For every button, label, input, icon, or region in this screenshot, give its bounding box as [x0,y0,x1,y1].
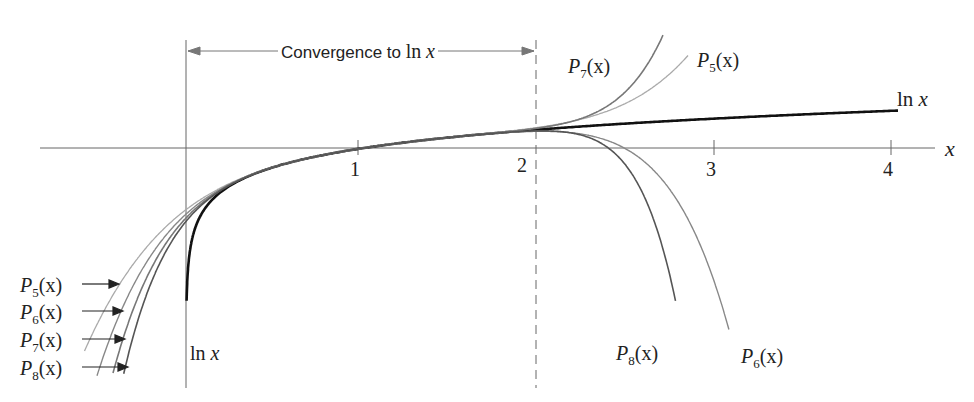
x-tick-label-1: 1 [350,158,360,181]
arg-text: (x) [716,49,739,71]
label-p8-left: P8(x) [20,358,62,382]
p-text: P [20,357,32,379]
p-text: P [616,342,628,364]
x-text: x [919,87,928,111]
arg-text: (x) [39,357,62,379]
label-p7-top: P7(x) [568,56,610,80]
x-text: x [211,342,220,364]
p-text: P [20,329,32,351]
arg-text: (x) [39,329,62,351]
x-tick-label-4: 4 [883,158,893,181]
ln-text: ln [897,87,913,111]
convergence-x: x [426,40,435,62]
ln-text: ln [190,342,206,364]
label-p7-left: P7(x) [20,330,62,354]
label-ln-x-right: ln x [897,89,928,110]
label-p5-left: P5(x) [20,275,62,299]
curves [85,35,899,376]
p-text: P [741,345,753,367]
arg-text: (x) [39,274,62,296]
label-ln-x-left: ln x [190,343,219,363]
convergence-ln: ln [406,40,422,62]
x-tick-label-2: 2 [517,154,527,177]
chart-plot-area [0,0,974,402]
arg-text: (x) [39,301,62,323]
label-p5-top: P5(x) [697,50,739,74]
curve-p6x [97,131,729,375]
p-text: P [20,301,32,323]
label-arrows [82,280,128,371]
curve-p5x [85,56,689,352]
curve-p7x [113,35,663,373]
arg-text: (x) [760,345,783,367]
arg-text: (x) [635,342,658,364]
p-text: P [568,55,580,77]
x-tick-label-3: 3 [706,158,716,181]
label-p6-bottom: P6(x) [741,346,783,370]
p-text: P [20,274,32,296]
x-axis-label: x [945,138,955,160]
convergence-annotation: Convergence to ln x [278,40,438,63]
curve-lnx [187,111,898,301]
label-p6-left: P6(x) [20,302,62,326]
arg-text: (x) [587,55,610,77]
curve-p8x [124,131,676,374]
p-text: P [697,49,709,71]
label-p8-bottom: P8(x) [616,343,658,367]
convergence-text: Convergence to [281,43,406,62]
